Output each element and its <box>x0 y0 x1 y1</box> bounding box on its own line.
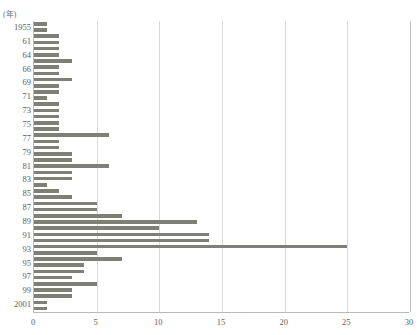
bar <box>34 78 72 82</box>
bar <box>34 294 72 298</box>
bar <box>34 65 59 69</box>
y-tick-label-64: 64 <box>0 51 31 60</box>
gridline-30 <box>410 21 411 312</box>
x-tick-label-20: 20 <box>279 316 288 328</box>
bar <box>34 189 59 193</box>
y-tick-label-87: 87 <box>0 203 31 212</box>
y-tick-label-1955: 1955 <box>0 23 31 32</box>
bar <box>34 208 97 212</box>
y-tick-label-61: 61 <box>0 37 31 46</box>
y-tick-label-75: 75 <box>0 120 31 129</box>
bar <box>34 307 47 311</box>
bar <box>34 109 59 113</box>
bar <box>34 214 122 218</box>
bar <box>34 34 59 38</box>
bar <box>34 59 72 63</box>
y-tick-label-79: 79 <box>0 148 31 157</box>
chart-title <box>0 0 419 7</box>
bar <box>34 270 84 274</box>
bar <box>34 220 197 224</box>
x-axis-line <box>33 312 409 313</box>
y-tick-label-83: 83 <box>0 175 31 184</box>
y-tick-label-66: 66 <box>0 65 31 74</box>
y-tick-label-85: 85 <box>0 189 31 198</box>
x-tick-label-25: 25 <box>342 316 351 328</box>
bar <box>34 245 347 249</box>
bar <box>34 202 97 206</box>
x-tick-label-0: 0 <box>31 316 35 328</box>
bar <box>34 239 209 243</box>
bar <box>34 276 72 280</box>
bar-series <box>34 21 410 312</box>
bar <box>34 171 72 175</box>
bar <box>34 233 209 237</box>
bar <box>34 72 59 76</box>
bar <box>34 257 122 261</box>
bar <box>34 288 72 292</box>
x-tick-label-5: 5 <box>94 316 98 328</box>
x-tick-label-10: 10 <box>154 316 163 328</box>
bar <box>34 158 72 162</box>
y-tick-label-71: 71 <box>0 92 31 101</box>
bar <box>34 121 59 125</box>
bar <box>34 22 47 26</box>
y-tick-label-69: 69 <box>0 78 31 87</box>
bar <box>34 226 159 230</box>
bar <box>34 195 72 199</box>
x-tick-label-30: 30 <box>405 316 414 328</box>
y-axis-tick-labels: 1955616466697173757779818385878991939597… <box>0 21 31 312</box>
plot-area <box>33 21 409 312</box>
bar <box>34 90 59 94</box>
y-tick-label-2001: 2001 <box>0 300 31 309</box>
bar <box>34 301 47 305</box>
y-tick-label-77: 77 <box>0 134 31 143</box>
y-axis-unit-label: (年) <box>3 10 16 19</box>
bar <box>34 28 47 32</box>
bar <box>34 282 97 286</box>
y-tick-label-99: 99 <box>0 286 31 295</box>
y-tick-label-97: 97 <box>0 272 31 281</box>
y-tick-label-81: 81 <box>0 162 31 171</box>
y-tick-label-93: 93 <box>0 245 31 254</box>
y-tick-label-89: 89 <box>0 217 31 226</box>
y-tick-label-95: 95 <box>0 259 31 268</box>
bar <box>34 102 59 106</box>
bar <box>34 47 59 51</box>
x-axis-tick-labels: 051015202530 <box>33 316 409 330</box>
bar <box>34 251 97 255</box>
x-tick-label-15: 15 <box>217 316 226 328</box>
bar <box>34 152 72 156</box>
bar <box>34 177 72 181</box>
bar <box>34 41 59 45</box>
horizontal-bar-chart: (年) 195561646669717375777981838587899193… <box>0 0 419 335</box>
bar <box>34 115 59 119</box>
bar <box>34 53 59 57</box>
bar <box>34 133 109 137</box>
bar <box>34 96 47 100</box>
y-tick-label-73: 73 <box>0 106 31 115</box>
bar <box>34 263 84 267</box>
bar <box>34 140 59 144</box>
bar <box>34 84 59 88</box>
bar <box>34 183 47 187</box>
bar <box>34 127 59 131</box>
y-tick-label-91: 91 <box>0 231 31 240</box>
bar <box>34 164 109 168</box>
bar <box>34 146 59 150</box>
